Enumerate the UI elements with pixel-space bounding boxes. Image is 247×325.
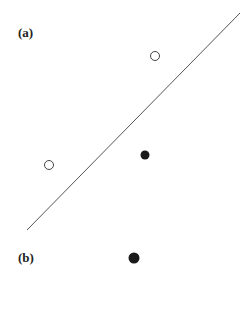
panel-b: (b) [18, 250, 140, 265]
open-circle-point [45, 161, 54, 170]
panel-a-label: (a) [18, 25, 33, 40]
panel-a: (a) [18, 13, 240, 230]
separating-line [27, 13, 240, 230]
figure-canvas: (a) (b) [0, 0, 247, 325]
panel-b-label: (b) [18, 250, 34, 265]
filled-circle-point [129, 253, 140, 264]
filled-circle-point [141, 151, 150, 160]
open-circle-point [151, 52, 160, 61]
